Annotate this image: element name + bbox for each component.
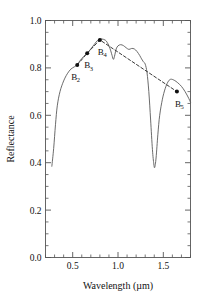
y-ticklabel: 0.8 (30, 63, 42, 73)
y-axis-title: Reflectance (5, 115, 16, 163)
band-label-sub-b5: 5 (180, 103, 183, 110)
y-ticklabel: 0.2 (30, 206, 42, 216)
figure-spectral-reflectance: 0.51.01.5 0.00.20.40.60.81.0 B2B3B4B5 Wa… (0, 0, 206, 301)
band-marker-b2 (75, 63, 79, 67)
y-ticklabel: 1.0 (30, 16, 42, 26)
x-ticklabel: 1.0 (112, 261, 124, 271)
x-ticklabel: 0.5 (67, 261, 79, 271)
band-label-sub-b2: 2 (77, 76, 80, 83)
band-marker-b3 (85, 51, 89, 55)
y-ticklabel: 0.4 (30, 158, 42, 168)
chart-canvas: 0.51.01.5 0.00.20.40.60.81.0 B2B3B4B5 Wa… (0, 0, 206, 301)
y-ticklabel: 0.6 (30, 111, 42, 121)
y-ticklabel: 0.0 (30, 253, 42, 263)
band-marker-b5 (175, 90, 179, 94)
band-marker-b4 (98, 38, 102, 42)
x-ticklabel: 1.5 (157, 261, 169, 271)
x-axis-title: Wavelength (µm) (83, 280, 153, 292)
band-label-sub-b3: 3 (90, 65, 93, 72)
